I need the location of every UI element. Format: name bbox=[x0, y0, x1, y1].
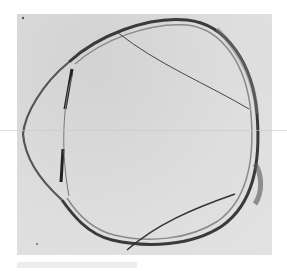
scan-artifact-line bbox=[0, 130, 287, 131]
eye-section-photograph bbox=[17, 14, 272, 255]
lens-capsule bbox=[64, 74, 73, 196]
iris-lower bbox=[61, 149, 63, 182]
speck bbox=[36, 243, 38, 245]
eye-section-drawing bbox=[17, 14, 272, 255]
retina-right-upper bbox=[217, 29, 257, 114]
optic-nerve bbox=[255, 164, 261, 204]
sclera-inner bbox=[67, 25, 252, 239]
caption-fragment bbox=[17, 262, 137, 268]
speck bbox=[22, 17, 24, 19]
